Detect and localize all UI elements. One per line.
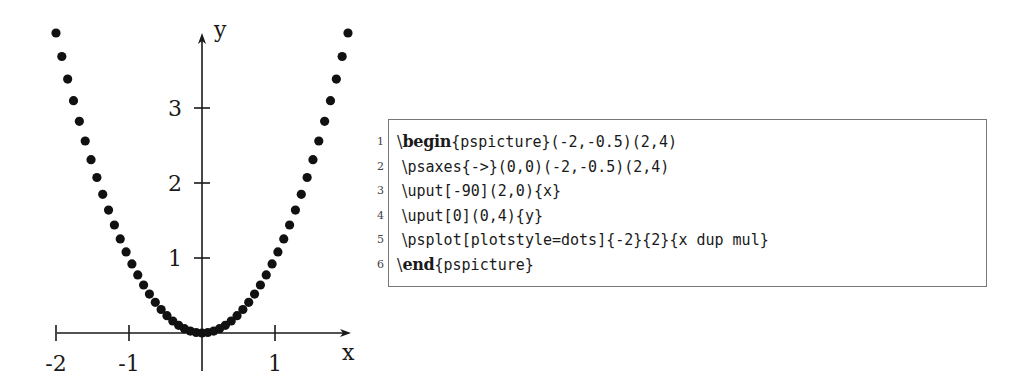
code-text: {pspicture} (435, 256, 534, 274)
code-listing: \begin{pspicture}(-2,-0.5)(2,4) \psaxes{… (388, 119, 987, 287)
code-backslash: \ (397, 181, 407, 200)
line-number: 3 (364, 178, 384, 202)
data-point (51, 28, 60, 37)
code-line: \psaxes{->}(0,0)(-2,-0.5)(2,4) (397, 155, 669, 179)
y-tick-label: 2 (168, 171, 182, 196)
code-backslash: \ (397, 206, 407, 225)
data-point (75, 117, 84, 126)
x-tick-label: 1 (268, 351, 282, 376)
data-point (116, 234, 125, 243)
code-line: \uput[0](0,4){y} (397, 204, 543, 228)
code-line: \uput[-90](2,0){x} (397, 179, 561, 203)
line-number: 4 (364, 203, 384, 227)
data-point (314, 136, 323, 145)
data-point (139, 280, 148, 289)
tick-labels: -2-11123 (45, 96, 282, 376)
code-line: \begin{pspicture}(-2,-0.5)(2,4) (397, 130, 677, 154)
data-point (69, 96, 78, 105)
data-point (285, 220, 294, 229)
y-axis-label: y (213, 17, 227, 42)
data-point (326, 96, 335, 105)
y-tick-label: 1 (168, 246, 182, 271)
data-point (110, 220, 119, 229)
data-point (145, 290, 154, 299)
data-point (63, 74, 72, 83)
data-point (291, 206, 300, 215)
data-point (332, 74, 341, 83)
line-number: 1 (364, 129, 384, 153)
data-point (279, 234, 288, 243)
line-number: 5 (364, 227, 384, 251)
data-point (297, 190, 306, 199)
code-keyword: begin (402, 132, 451, 151)
data-point (262, 270, 271, 279)
code-backslash: \ (397, 157, 407, 176)
code-backslash: \ (397, 230, 407, 249)
code-line: \psplot[plotstyle=dots]{-2}{2}{x dup mul… (397, 228, 769, 252)
data-point (57, 52, 66, 61)
data-point (250, 290, 259, 299)
data-point (308, 155, 317, 164)
code-text: {pspicture}(-2,-0.5)(2,4) (451, 133, 677, 151)
code-text: uput[0](0,4){y} (407, 207, 542, 225)
data-point (320, 117, 329, 126)
y-tick-label: 3 (168, 96, 182, 121)
code-text: uput[-90](2,0){x} (407, 182, 561, 200)
data-point (133, 270, 142, 279)
axes (57, 40, 344, 371)
x-axis-label: x (342, 340, 355, 365)
data-point (267, 259, 276, 268)
data-point (104, 206, 113, 215)
x-tick-label: -1 (118, 351, 139, 376)
code-line: \end{pspicture} (397, 253, 534, 277)
data-point (127, 259, 136, 268)
data-point (86, 155, 95, 164)
data-point (98, 190, 107, 199)
data-point (92, 173, 101, 182)
data-point (273, 247, 282, 256)
code-keyword: end (402, 255, 434, 274)
data-point (244, 298, 253, 307)
line-number: 2 (364, 154, 384, 178)
data-point (121, 247, 130, 256)
data-point (81, 136, 90, 145)
data-point (238, 305, 247, 314)
data-point (151, 298, 160, 307)
parabola-plot: -2-11123 x y (0, 0, 380, 392)
code-text: psaxes{->}(0,0)(-2,-0.5)(2,4) (407, 158, 669, 176)
data-point (256, 280, 265, 289)
data-point (338, 52, 347, 61)
code-text: psplot[plotstyle=dots]{-2}{2}{x dup mul} (407, 231, 768, 249)
data-point (343, 28, 352, 37)
line-number: 6 (364, 252, 384, 276)
x-tick-label: -2 (45, 351, 66, 376)
data-point (303, 173, 312, 182)
